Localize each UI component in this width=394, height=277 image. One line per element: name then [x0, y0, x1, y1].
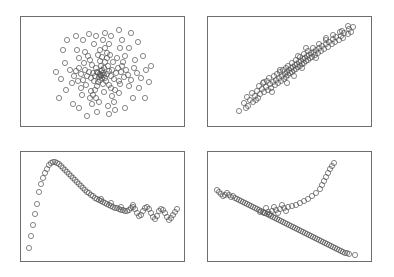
data-point	[102, 59, 107, 64]
data-point	[291, 73, 296, 78]
data-point	[71, 73, 76, 78]
data-point	[121, 74, 126, 79]
data-point	[102, 30, 107, 35]
data-point	[313, 190, 318, 195]
data-point	[146, 79, 151, 84]
data-point	[100, 81, 105, 86]
data-point	[78, 71, 83, 76]
data-point	[101, 89, 106, 94]
data-point	[113, 70, 118, 75]
data-point	[114, 55, 119, 60]
data-point	[297, 200, 302, 205]
data-point	[109, 93, 114, 98]
data-point	[93, 33, 98, 38]
data-point	[123, 67, 128, 72]
data-point	[345, 23, 350, 28]
data-point	[126, 83, 131, 88]
data-point	[28, 233, 33, 238]
data-point	[148, 63, 153, 68]
data-point	[95, 52, 100, 57]
data-point	[34, 201, 39, 206]
data-point	[236, 108, 241, 113]
data-point	[254, 88, 259, 93]
data-point	[130, 95, 135, 100]
data-point	[111, 76, 116, 81]
data-point	[126, 45, 131, 50]
plot-area	[21, 17, 186, 128]
data-point	[87, 57, 92, 62]
plot-area	[208, 152, 373, 263]
data-point	[88, 75, 93, 80]
data-point	[40, 175, 45, 180]
data-point	[80, 77, 85, 82]
plot-area	[208, 17, 373, 128]
data-point	[117, 81, 122, 86]
data-point	[117, 45, 122, 50]
data-point	[30, 222, 35, 227]
data-point	[244, 94, 249, 99]
data-point	[116, 90, 121, 95]
data-point	[106, 41, 111, 46]
data-point	[62, 60, 67, 65]
data-point	[86, 31, 91, 36]
data-point	[317, 186, 322, 191]
data-point	[284, 80, 289, 85]
data-point	[83, 82, 88, 87]
scatter-panel-bottom-right	[207, 151, 372, 262]
data-point	[128, 77, 133, 82]
data-point	[89, 62, 94, 67]
data-point	[323, 174, 328, 179]
data-point	[84, 73, 89, 78]
plot-area	[21, 152, 186, 263]
data-point	[56, 95, 61, 100]
data-point	[100, 37, 105, 42]
data-point	[142, 95, 147, 100]
data-point	[44, 166, 49, 171]
data-point	[73, 68, 78, 73]
data-point	[82, 67, 87, 72]
data-point	[321, 178, 326, 183]
data-point	[108, 73, 113, 78]
data-point	[91, 41, 96, 46]
data-point	[119, 37, 124, 42]
data-point	[249, 90, 254, 95]
data-point	[79, 92, 84, 97]
data-point	[76, 55, 81, 60]
data-point	[97, 58, 102, 63]
data-point	[90, 92, 95, 97]
data-point	[89, 101, 94, 106]
data-point	[112, 107, 117, 112]
data-point	[96, 99, 101, 104]
data-point	[122, 105, 127, 110]
data-point	[76, 65, 81, 70]
data-point	[73, 33, 78, 38]
data-point	[53, 69, 58, 74]
data-point	[111, 99, 116, 104]
scatter-panel-top-right	[207, 16, 372, 127]
data-point	[74, 47, 79, 52]
data-point	[132, 57, 137, 62]
data-point	[42, 170, 47, 175]
data-point	[122, 53, 127, 58]
data-point	[301, 198, 306, 203]
data-point	[134, 70, 139, 75]
data-point	[257, 91, 262, 96]
data-point	[94, 109, 99, 114]
data-point	[106, 111, 111, 116]
data-point	[102, 45, 107, 50]
data-point	[138, 212, 143, 217]
data-point	[118, 69, 123, 74]
data-point	[325, 170, 330, 175]
data-point	[148, 210, 153, 215]
data-point	[125, 72, 130, 77]
data-point	[67, 67, 72, 72]
data-point	[136, 85, 141, 90]
data-point	[110, 59, 115, 64]
data-point	[60, 47, 65, 52]
scatter-panel-bottom-left	[20, 151, 185, 262]
data-point	[36, 189, 41, 194]
data-point	[63, 87, 68, 92]
data-point	[128, 30, 133, 35]
data-point	[102, 75, 107, 80]
data-point	[80, 37, 85, 42]
